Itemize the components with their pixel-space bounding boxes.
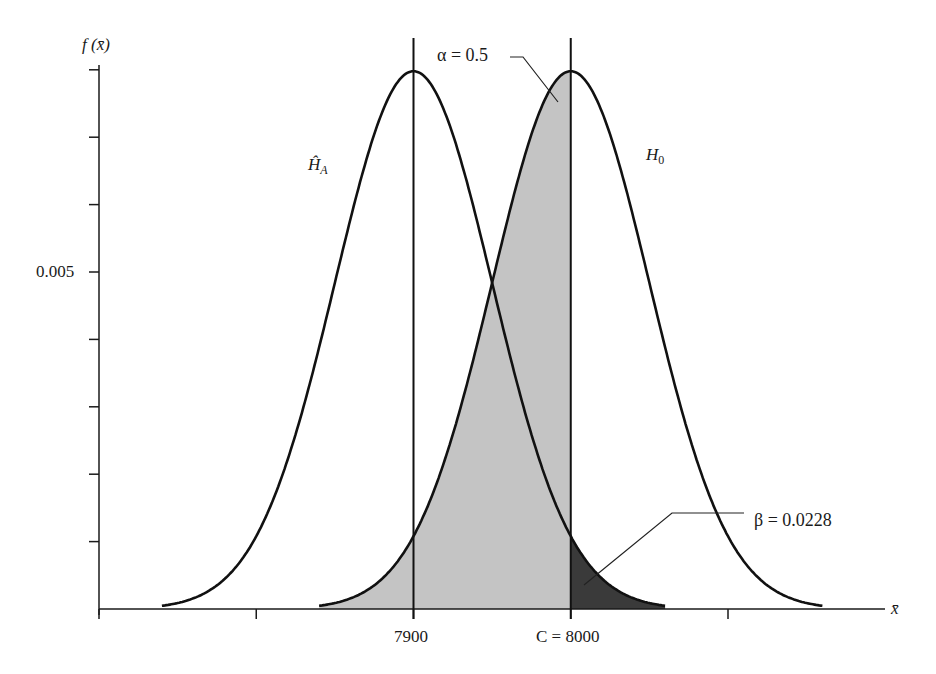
- x-tick-label-7900: 7900: [394, 628, 428, 645]
- chart-plot: [0, 0, 936, 674]
- alpha-region: [319, 71, 571, 609]
- x-tick-label-critical: C = 8000: [536, 628, 599, 645]
- x-axis-label: x̄: [891, 600, 899, 617]
- beta-label: β = 0.0228: [754, 511, 832, 529]
- y-tick-label: 0.005: [36, 263, 74, 280]
- y-axis-label: f (x̄): [82, 36, 110, 53]
- alpha-label: α = 0.5: [437, 46, 488, 64]
- beta-leader-line: [584, 513, 744, 585]
- h-a-label: ĤA: [308, 156, 328, 176]
- h-0-label: H0: [646, 146, 664, 166]
- beta-region: [571, 536, 665, 609]
